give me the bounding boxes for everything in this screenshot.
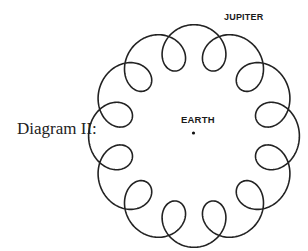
earth-dot [192, 131, 195, 134]
epicycle-curve [89, 25, 300, 248]
jupiter-retrograde-path [0, 0, 308, 251]
jupiter-label: JUPITER [224, 12, 263, 22]
earth-label: EARTH [181, 114, 215, 125]
